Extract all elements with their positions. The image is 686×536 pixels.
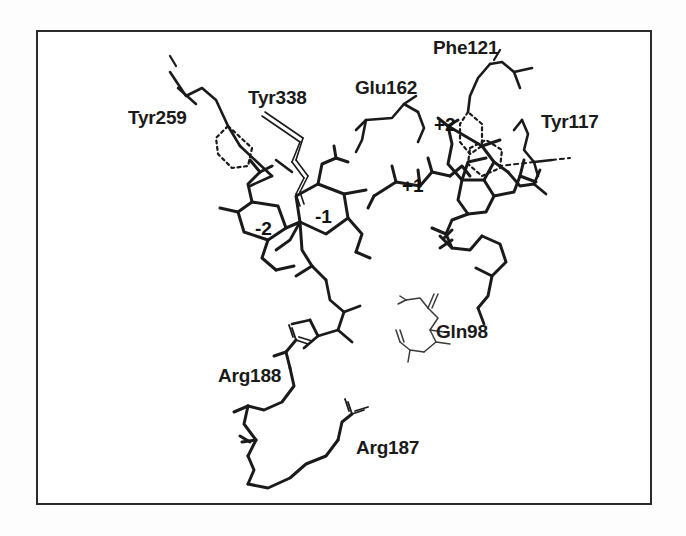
residue-label-arg188: Arg188 bbox=[218, 366, 281, 385]
residue-label-glu162: Glu162 bbox=[355, 78, 417, 97]
residue-label-phe121: Phe121 bbox=[433, 38, 498, 57]
subsite-label-minus-two: -2 bbox=[255, 219, 272, 238]
residue-label-tyr338: Tyr338 bbox=[248, 88, 307, 107]
subsite-label-minus-one: -1 bbox=[315, 207, 332, 226]
subsite-label-plus-two: +2 bbox=[434, 115, 456, 134]
residue-label-tyr259: Tyr259 bbox=[128, 108, 187, 127]
figure-frame bbox=[36, 30, 652, 505]
figure-canvas: Tyr259 Tyr338 Glu162 Phe121 Tyr117 Gln98… bbox=[0, 0, 686, 536]
residue-label-arg187: Arg187 bbox=[356, 438, 419, 457]
residue-label-gln98: Gln98 bbox=[436, 322, 488, 341]
subsite-label-plus-one: +1 bbox=[402, 176, 424, 195]
residue-label-tyr117: Tyr117 bbox=[541, 112, 599, 131]
